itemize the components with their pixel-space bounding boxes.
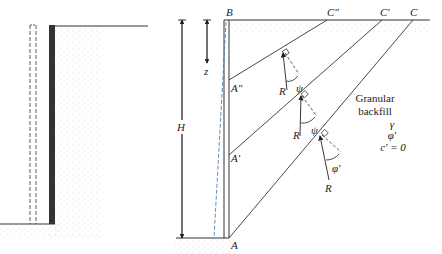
slip-plane-A1-C1 (229, 20, 382, 155)
left-panel (0, 25, 148, 240)
label-R-1: R (278, 85, 286, 97)
prop-phi: φ′ (388, 129, 397, 141)
wall (49, 25, 55, 224)
foundation-stipple (0, 225, 60, 240)
label-psi-1: ψ (296, 82, 303, 94)
label-C: C (410, 6, 418, 18)
label-C2: C″ (327, 6, 339, 18)
label-R-2: R (292, 129, 300, 141)
surface-stipple (229, 20, 429, 32)
backfill-stipple (55, 28, 103, 238)
label-H: H (176, 121, 186, 133)
label-z: z (203, 65, 209, 77)
label-A2: A″ (230, 82, 243, 94)
dimension-z (203, 20, 211, 63)
slip-plane-A-C (229, 20, 413, 238)
base-stipple (175, 238, 235, 254)
label-B: B (226, 6, 233, 18)
label-R-3: R (324, 182, 332, 194)
prop-c: c′ = 0 (380, 141, 406, 153)
label-A: A (230, 239, 238, 251)
label-psi-2: ψ (311, 124, 318, 136)
diagram-canvas: B A C″ C′ C A″ A′ H z R R R ψ ψ φ′ Granu… (0, 0, 442, 254)
material-line2: backfill (358, 105, 392, 117)
label-C1: C′ (380, 6, 390, 18)
label-phi-prime: φ′ (332, 162, 341, 174)
material-line1: Granular (355, 92, 394, 104)
right-panel: B A C″ C′ C A″ A′ H z R R R ψ ψ φ′ Granu… (175, 6, 430, 254)
label-A1: A′ (230, 152, 241, 164)
